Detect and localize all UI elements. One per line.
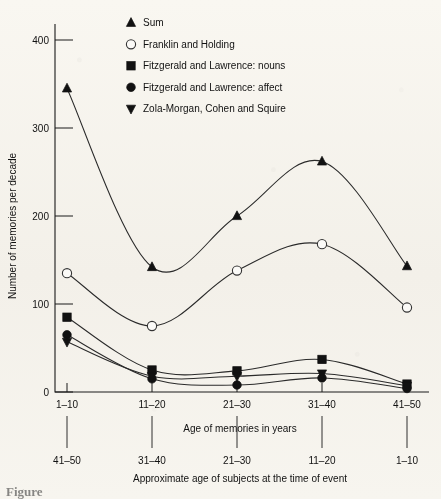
secondary-axis-tick-label: 21–30 (223, 455, 251, 466)
data-point-marker (62, 269, 71, 278)
x-axis-tick-label: 21–30 (223, 399, 251, 410)
series-line-triangle-up (67, 88, 407, 272)
legend-marker-triangle-down (126, 105, 135, 114)
y-axis-tick-label: 200 (32, 211, 49, 222)
legend-label: Fitzgerald and Lawrence: nouns (143, 60, 285, 71)
x-axis-tick-label: 31–40 (308, 399, 336, 410)
data-point-marker (402, 303, 411, 312)
legend-marker-circle-filled (127, 83, 136, 92)
data-point-marker (232, 266, 241, 275)
data-point-marker (62, 338, 71, 347)
x-axis-tick-label: 41–50 (393, 399, 421, 410)
x-axis-tick-label: 11–20 (138, 399, 166, 410)
data-point-marker (147, 321, 156, 330)
figure-caption: Figure (6, 484, 43, 499)
legend-marker-square (127, 62, 135, 70)
y-axis-tick-label: 100 (32, 299, 49, 310)
data-point-marker (318, 355, 326, 363)
y-axis-tick-label: 400 (32, 35, 49, 46)
legend-label: Franklin and Holding (143, 39, 235, 50)
data-point-marker (232, 211, 241, 220)
figure-caption-strip: Figure (0, 483, 441, 499)
legend-marker-circle-open (126, 40, 135, 49)
y-axis-tick-label: 300 (32, 123, 49, 134)
y-axis-tick-label: 0 (43, 387, 49, 398)
x-axis-title: Age of memories in years (183, 423, 296, 434)
data-point-marker (317, 240, 326, 249)
legend-marker-triangle-up (126, 18, 135, 27)
secondary-axis-tick-label: 41–50 (53, 455, 81, 466)
figure-container: 01002003004001–1011–2021–3031–4041–50Num… (0, 0, 441, 499)
secondary-axis-tick-label: 1–10 (396, 455, 419, 466)
secondary-axis-tick-label: 11–20 (308, 455, 336, 466)
data-point-marker (147, 262, 156, 271)
data-point-marker (63, 313, 71, 321)
series-line-circle-open (67, 243, 407, 326)
data-point-marker (62, 83, 71, 92)
secondary-axis-tick-label: 31–40 (138, 455, 166, 466)
legend-label: Sum (143, 17, 164, 28)
line-chart: 01002003004001–1011–2021–3031–4041–50Num… (0, 0, 441, 499)
data-point-marker (63, 331, 72, 340)
y-axis-title: Number of memories per decade (7, 152, 18, 299)
chart-axes (55, 24, 429, 392)
data-point-marker (232, 373, 241, 382)
legend-label: Zola-Morgan, Cohen and Squire (143, 103, 286, 114)
legend-label: Fitzgerald and Lawrence: affect (143, 82, 283, 93)
x-axis-tick-label: 1–10 (56, 399, 79, 410)
